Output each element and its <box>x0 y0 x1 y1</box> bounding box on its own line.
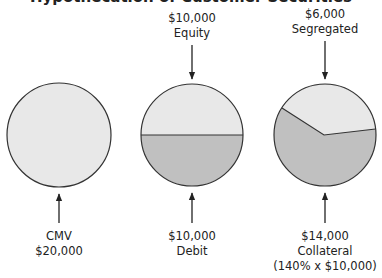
debit-label: Debit <box>177 244 208 258</box>
collateral-label: Collateral <box>297 244 352 258</box>
debit-value: $10,000 <box>168 229 216 243</box>
equity-segment <box>141 84 243 135</box>
collateral-formula: (140% x $10,000) <box>273 259 377 273</box>
cmv-label: CMV <box>46 229 72 243</box>
debit-segment <box>141 135 243 186</box>
segregated-value: $6,000 <box>305 7 345 21</box>
equity-label: Equity <box>174 26 211 40</box>
equity-value: $10,000 <box>168 11 216 25</box>
pie-margin-account: $10,000 Equity $10,000 Debit <box>141 11 243 258</box>
collateral-value: $14,000 <box>301 229 349 243</box>
pie-hypothecation: $6,000 Segregated $14,000 Collateral (14… <box>273 7 377 273</box>
pie-cmv: CMV $20,000 <box>7 83 111 258</box>
cmv-circle <box>7 83 111 187</box>
segregated-label: Segregated <box>292 22 358 36</box>
diagram-title: Hypothecation of Customer Securities <box>30 0 352 6</box>
hypothecation-diagram: Hypothecation of Customer Securities CMV… <box>0 0 382 278</box>
cmv-value: $20,000 <box>35 244 83 258</box>
